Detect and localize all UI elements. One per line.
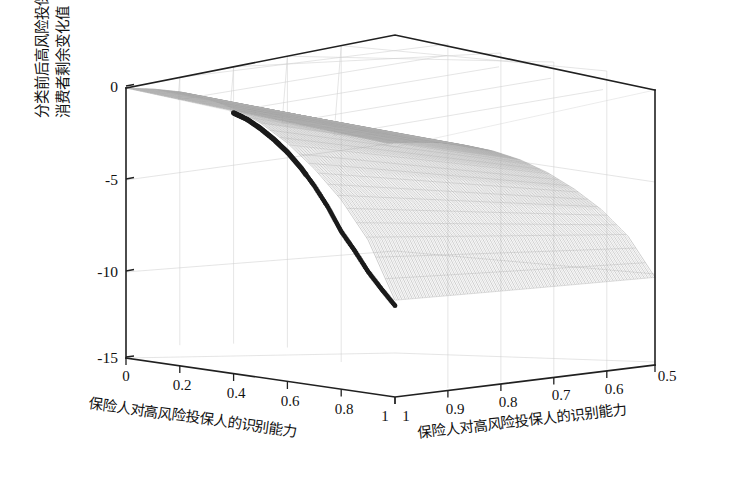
surface-mesh-line (145, 89, 405, 143)
x-left-axis-label: 保险人对高风险投保人的识别能力 (88, 395, 298, 439)
curve-point (393, 303, 398, 308)
z-axis-label-line1: 分类前后高风险投保人 (34, 0, 50, 118)
z-tick-label: -15 (97, 349, 118, 366)
x-right-tick-label: 0.9 (446, 401, 465, 417)
surface-mesh-line (192, 102, 461, 295)
x-left-tick-label: 0.4 (227, 385, 246, 401)
z-tick-label: 0 (110, 78, 118, 95)
x-right-tick-label: 1 (402, 408, 410, 424)
surface-mesh-line (337, 195, 597, 206)
surface-mesh-line (395, 277, 655, 300)
z-tick-label: -5 (105, 171, 118, 188)
surface-mesh-line (126, 88, 386, 143)
surface-mesh-line (195, 103, 464, 295)
x-right-tick-label: 0.5 (658, 368, 677, 384)
x-left-tick-label: 0 (122, 368, 130, 384)
surface-mesh-line (232, 108, 492, 151)
figure-container: 0 -5 -10 -15 0 0.2 0.4 0.6 0.8 1 1 0.9 0… (0, 0, 729, 491)
three-d-surface-plot: 0 -5 -10 -15 0 0.2 0.4 0.6 0.8 1 1 0.9 0… (0, 0, 729, 491)
x-left-tick-label: 0.2 (173, 377, 192, 393)
x-right-tick-label: 0.7 (552, 387, 571, 403)
x-right-tick-label: 0.6 (605, 381, 624, 397)
z-axis-label: 分类前后高风险投保人 消费者剩余变化值 (34, 0, 71, 118)
z-tick-label: -10 (97, 263, 118, 280)
x-left-tick-label: 0.8 (335, 401, 354, 417)
surface-mesh-line (164, 96, 433, 297)
surface-mesh-line (162, 96, 431, 297)
x-left-axis-ticks (126, 358, 395, 404)
x-left-tick-label: 1 (381, 408, 389, 424)
surface-mesh (126, 88, 655, 300)
x-right-tick-label: 0.8 (499, 394, 518, 410)
z-axis-label-line2: 消费者剩余变化值 (54, 6, 71, 118)
z-tick-labels: 0 -5 -10 -15 (97, 78, 118, 366)
x-left-tick-label: 0.6 (281, 393, 300, 409)
surface-mesh-line (155, 89, 415, 142)
z-axis-ticks (126, 85, 134, 358)
